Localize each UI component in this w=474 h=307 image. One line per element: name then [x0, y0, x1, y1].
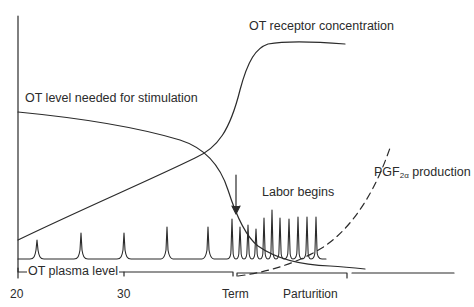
x-tick-term: Term [222, 288, 249, 300]
labor-begins-label: Labor begins [262, 186, 334, 199]
stimulation-threshold-label: OT level needed for stimulation [25, 92, 198, 105]
pgf-production-label: PGF2α production [374, 166, 471, 180]
oxytocin-parturition-diagram [0, 0, 474, 307]
pgf-suffix: production [409, 165, 471, 179]
receptor-concentration-label: OT receptor concentration [249, 20, 394, 33]
pgf-prefix: PGF [374, 165, 400, 179]
x-tick-20: 20 [10, 288, 23, 300]
pgf-subscript: 2α [400, 171, 409, 180]
x-tick-30: 30 [117, 288, 130, 300]
ot-plasma-level-trace [18, 210, 326, 259]
labor-begins-arrow-head [232, 206, 240, 214]
ot-plasma-level-label: OT plasma level [27, 265, 119, 278]
x-tick-parturition: Parturition [283, 288, 338, 300]
